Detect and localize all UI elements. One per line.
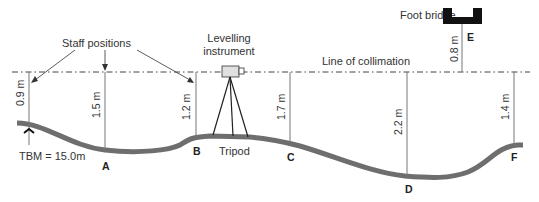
arrow-icon <box>187 77 194 83</box>
reading-b: 1.2 m <box>180 93 192 120</box>
arrow-icon <box>31 76 38 83</box>
point-a-label: A <box>102 160 110 172</box>
reading-c: 1.7 m <box>275 93 287 120</box>
reading-d: 2.2 m <box>392 108 404 135</box>
levelling-diagram: Staff positions Levelling instrument Tri… <box>0 0 539 202</box>
point-c-label: C <box>287 151 295 163</box>
reading-tbm: 0.9 m <box>14 79 26 106</box>
levelling-instrument-icon <box>222 66 239 77</box>
tripod-icon <box>213 77 248 137</box>
reading-f: 1.4 m <box>499 93 511 120</box>
ground-profile <box>17 123 523 177</box>
foot-bridge-icon <box>443 8 482 24</box>
arrow-icon <box>102 64 108 71</box>
reading-e: 0.8 m <box>448 35 460 62</box>
point-b-label: B <box>193 145 201 157</box>
tbm-label: TBM = 15.0m <box>19 150 85 162</box>
point-d-label: D <box>405 183 413 195</box>
point-f-label: F <box>511 151 518 163</box>
reading-a: 1.5 m <box>90 91 102 118</box>
point-e-label: E <box>467 31 474 43</box>
staff-positions-label: Staff positions <box>62 37 131 49</box>
tripod-label: Tripod <box>219 145 250 157</box>
collimation-label: Line of collimation <box>322 55 410 67</box>
levelling-label-1: Levelling <box>207 32 250 44</box>
levelling-label-2: instrument <box>203 45 254 57</box>
